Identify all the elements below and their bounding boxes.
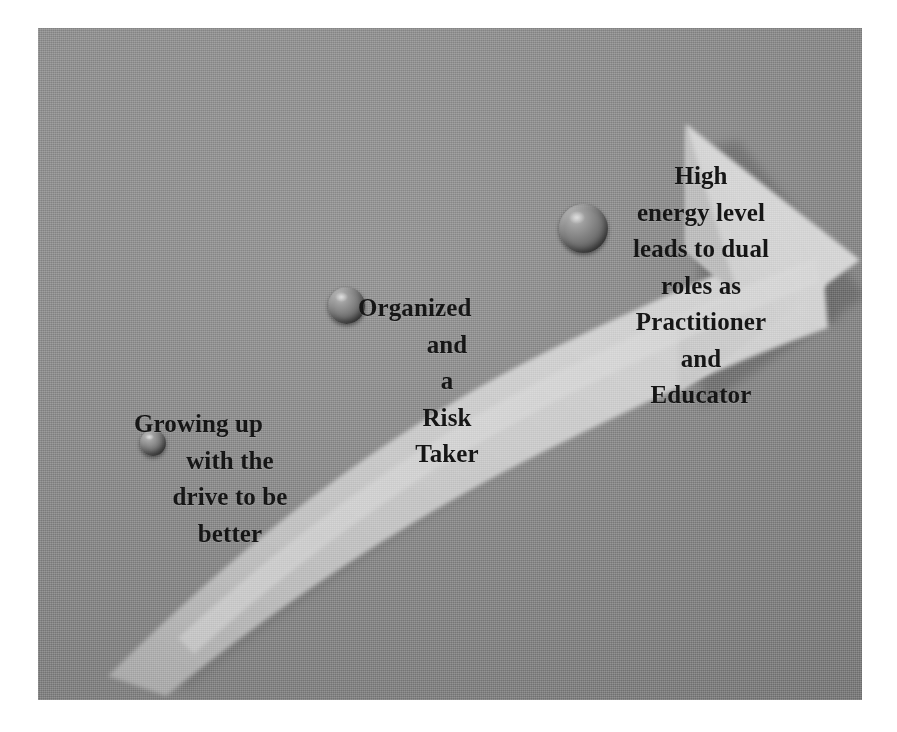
stage-3-line-5: Practitioner	[586, 304, 816, 341]
stage-1-line-3: drive to be	[132, 479, 328, 516]
stage-2-line-3: a	[352, 363, 542, 400]
figure-canvas: Growing up with the drive to be better O…	[0, 0, 897, 732]
stage-1-line-1: Growing up	[132, 406, 328, 443]
stage-2-line-4: Risk	[352, 400, 542, 437]
stage-3-caption: High energy level leads to dual roles as…	[586, 158, 816, 414]
stage-1-caption: Growing up with the drive to be better	[132, 406, 328, 552]
stage-3-line-3: leads to dual	[586, 231, 816, 268]
stage-2-line-1: Organized	[352, 290, 542, 327]
stage-2-caption: Organized and a Risk Taker	[352, 290, 542, 473]
stage-1-line-2: with the	[132, 443, 328, 480]
stage-2-line-5: Taker	[352, 436, 542, 473]
stage-3-line-6: and	[586, 341, 816, 378]
stage-2-line-2: and	[352, 327, 542, 364]
stage-3-line-1: High	[586, 158, 816, 195]
stage-1-line-4: better	[132, 516, 328, 553]
stage-3-line-7: Educator	[586, 377, 816, 414]
stage-3-line-2: energy level	[586, 195, 816, 232]
stage-3-line-4: roles as	[586, 268, 816, 305]
